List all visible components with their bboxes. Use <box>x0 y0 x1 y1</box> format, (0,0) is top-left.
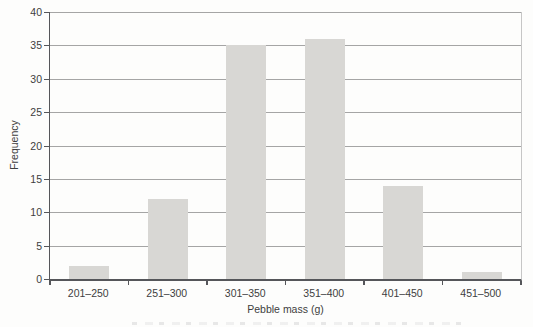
x-category-label-401–450: 401–450 <box>363 287 442 300</box>
cutoff-print-artifact <box>132 322 467 325</box>
y-tick-30 <box>44 79 49 80</box>
y-tick-label-20: 20 <box>8 140 42 152</box>
y-tick-label-35: 35 <box>8 39 42 51</box>
y-tick-0 <box>44 279 49 280</box>
x-category-label-201–250: 201–250 <box>49 287 128 300</box>
y-tick-label-40: 40 <box>8 6 42 18</box>
plot-area <box>49 12 522 281</box>
gridline-10 <box>50 212 521 213</box>
y-tick-label-5: 5 <box>8 240 42 252</box>
x-category-label-451–500: 451–500 <box>442 287 521 300</box>
bar-201–250 <box>69 266 109 279</box>
x-category-label-251–300: 251–300 <box>128 287 207 300</box>
y-tick-15 <box>44 179 49 180</box>
gridline-25 <box>50 112 521 113</box>
bar-301–350 <box>226 45 266 279</box>
gridline-20 <box>50 146 521 147</box>
x-category-label-351–400: 351–400 <box>285 287 364 300</box>
y-tick-20 <box>44 146 49 147</box>
y-tick-25 <box>44 112 49 113</box>
gridline-15 <box>50 179 521 180</box>
x-tick-4 <box>363 281 365 285</box>
bar-451–500 <box>462 272 502 279</box>
y-tick-5 <box>44 246 49 247</box>
y-tick-label-30: 30 <box>8 73 42 85</box>
gridline-35 <box>50 45 521 46</box>
x-tick-3 <box>285 281 287 285</box>
y-tick-label-15: 15 <box>8 173 42 185</box>
x-category-label-301–350: 301–350 <box>206 287 285 300</box>
y-tick-40 <box>44 12 49 13</box>
histogram-figure: Frequency 0510152025303540 201–250251–30… <box>0 0 533 327</box>
gridline-30 <box>50 79 521 80</box>
y-tick-label-10: 10 <box>8 206 42 218</box>
x-tick-6 <box>520 281 522 285</box>
gridline-40 <box>50 12 521 13</box>
y-tick-10 <box>44 212 49 213</box>
x-tick-0 <box>49 281 51 285</box>
x-tick-2 <box>206 281 208 285</box>
gridline-5 <box>50 246 521 247</box>
bar-401–450 <box>383 186 423 279</box>
x-axis-title: Pebble mass (g) <box>49 303 522 316</box>
bar-251–300 <box>148 199 188 279</box>
x-tick-5 <box>442 281 444 285</box>
x-tick-1 <box>128 281 130 285</box>
y-tick-label-0: 0 <box>8 273 42 285</box>
y-tick-35 <box>44 45 49 46</box>
y-tick-label-25: 25 <box>8 106 42 118</box>
bar-351–400 <box>305 39 345 279</box>
